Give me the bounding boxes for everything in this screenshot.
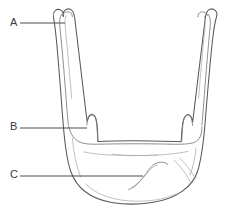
label-b: B bbox=[10, 121, 18, 132]
label-c: C bbox=[10, 169, 18, 180]
label-a: A bbox=[10, 17, 18, 28]
figure-container: A B C bbox=[0, 0, 226, 211]
hyoid-bone-silhouette bbox=[53, 9, 217, 204]
hyoid-bone-illustration bbox=[0, 0, 226, 211]
bone-outline-group bbox=[53, 9, 217, 204]
